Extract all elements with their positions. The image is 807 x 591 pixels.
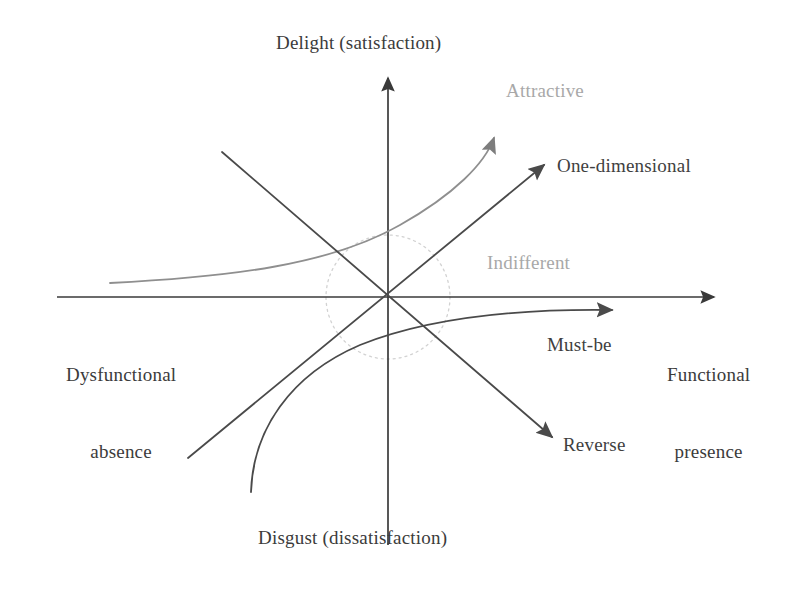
x-axis-left-label-line1: Dysfunctional [66, 362, 176, 388]
x-axis-right-label-line1: Functional [667, 362, 750, 388]
x-axis-right-label: Functional presence [667, 311, 750, 516]
y-axis-bottom-label: Disgust (dissatisfaction) [258, 525, 447, 551]
attractive-curve [110, 138, 494, 283]
indifferent-label: Indifferent [487, 250, 570, 276]
x-axis-right-label-line2: presence [667, 439, 750, 465]
x-axis-left-label-line2: absence [66, 439, 176, 465]
kano-model-diagram: Delight (satisfaction) Disgust (dissatis… [0, 0, 807, 591]
reverse-label: Reverse [563, 432, 626, 458]
one-dimensional-line [188, 165, 544, 458]
y-axis-top-label: Delight (satisfaction) [276, 30, 441, 56]
one-dimensional-label: One-dimensional [557, 153, 691, 179]
must-be-label: Must-be [547, 332, 612, 358]
reverse-line [222, 152, 552, 437]
x-axis-left-label: Dysfunctional absence [66, 311, 176, 516]
attractive-label: Attractive [506, 78, 584, 104]
